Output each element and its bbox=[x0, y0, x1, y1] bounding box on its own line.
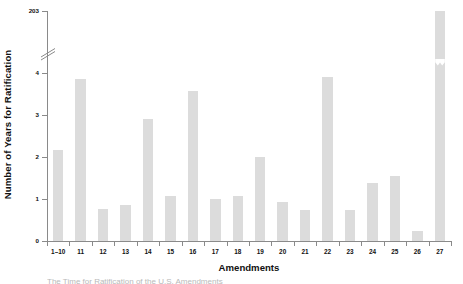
x-axis-tick bbox=[294, 241, 295, 246]
bar bbox=[53, 150, 64, 241]
bar bbox=[98, 209, 109, 241]
y-axis-title: Number of Years for Ratification bbox=[0, 0, 16, 248]
y-axis-tick-label: 203 bbox=[29, 8, 39, 14]
x-axis-tick-label: 20 bbox=[279, 249, 286, 255]
bar bbox=[367, 183, 378, 241]
x-axis-tick-label: 1–10 bbox=[51, 249, 65, 255]
y-axis-tick: 1 bbox=[42, 199, 48, 200]
x-axis-tick-label: 12 bbox=[100, 249, 107, 255]
bar bbox=[277, 202, 288, 241]
bar bbox=[345, 210, 356, 242]
x-axis-tick-label: 11 bbox=[77, 249, 84, 255]
x-axis-tick bbox=[429, 241, 430, 246]
y-axis-break-icon bbox=[40, 45, 58, 62]
x-axis-tick-label: 15 bbox=[167, 249, 174, 255]
x-axis-tick-label: 24 bbox=[369, 249, 376, 255]
x-axis-tick bbox=[339, 241, 340, 246]
x-axis-tick bbox=[316, 241, 317, 246]
y-axis-title-text: Number of Years for Ratification bbox=[3, 49, 14, 199]
y-axis-tick-label: 3 bbox=[36, 112, 39, 118]
bar bbox=[300, 210, 311, 242]
bar-chart-figure: Number of Years for Ratification 0123420… bbox=[0, 0, 463, 284]
bar bbox=[412, 231, 423, 242]
x-axis-tick bbox=[69, 241, 70, 246]
x-axis-tick bbox=[361, 241, 362, 246]
bar bbox=[210, 199, 221, 241]
bar bbox=[120, 205, 131, 241]
x-axis-tick bbox=[114, 241, 115, 246]
x-axis-tick bbox=[451, 241, 452, 246]
y-axis-tick-label: 1 bbox=[36, 196, 39, 202]
y-axis-line bbox=[47, 11, 48, 242]
bar bbox=[435, 11, 446, 241]
plot-area: 01234203 1–10111213141516171819202122232… bbox=[47, 11, 451, 241]
y-axis-tick: 203 bbox=[42, 11, 48, 12]
x-axis-tick bbox=[271, 241, 272, 246]
x-axis-tick bbox=[182, 241, 183, 246]
x-axis-tick bbox=[159, 241, 160, 246]
x-axis-tick bbox=[137, 241, 138, 246]
bar bbox=[188, 91, 199, 241]
figure-caption: The Time for Ratification of the U.S. Am… bbox=[47, 277, 457, 284]
bar bbox=[255, 157, 266, 241]
x-axis-tick-label: 22 bbox=[324, 249, 331, 255]
y-axis-tick: 4 bbox=[42, 73, 48, 74]
x-axis-tick-label: 16 bbox=[189, 249, 196, 255]
x-axis-tick-label: 14 bbox=[144, 249, 151, 255]
x-axis-tick bbox=[204, 241, 205, 246]
x-axis-tick bbox=[92, 241, 93, 246]
y-axis-tick: 2 bbox=[42, 157, 48, 158]
x-axis-tick-label: 17 bbox=[212, 249, 219, 255]
x-axis-tick bbox=[249, 241, 250, 246]
bar bbox=[322, 77, 333, 241]
bar bbox=[233, 196, 244, 241]
bar bbox=[75, 79, 86, 241]
bar bbox=[143, 119, 154, 241]
x-axis-title: Amendments bbox=[47, 262, 451, 273]
x-axis-tick-label: 13 bbox=[122, 249, 129, 255]
x-axis-tick bbox=[384, 241, 385, 246]
x-axis-tick-label: 23 bbox=[346, 249, 353, 255]
x-axis-tick-label: 26 bbox=[414, 249, 421, 255]
x-axis-tick bbox=[406, 241, 407, 246]
x-axis-tick-label: 19 bbox=[257, 249, 264, 255]
x-axis-tick-label: 18 bbox=[234, 249, 241, 255]
x-axis-tick bbox=[47, 241, 48, 246]
y-axis-tick-label: 4 bbox=[36, 70, 39, 76]
bar bbox=[165, 196, 176, 241]
y-axis-tick-label: 2 bbox=[36, 154, 39, 160]
bar bbox=[390, 176, 401, 241]
y-axis-tick-label: 0 bbox=[36, 238, 39, 244]
y-axis-tick: 3 bbox=[42, 115, 48, 116]
x-axis-tick bbox=[227, 241, 228, 246]
x-axis-tick-label: 21 bbox=[302, 249, 309, 255]
x-axis-tick-label: 27 bbox=[436, 249, 443, 255]
x-axis-tick-label: 25 bbox=[391, 249, 398, 255]
